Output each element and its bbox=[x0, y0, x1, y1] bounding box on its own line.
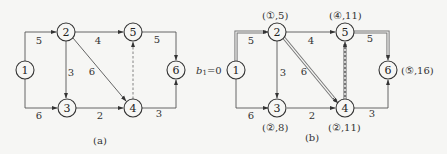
edge-1-3 bbox=[25, 79, 57, 108]
svg-text:2: 2 bbox=[63, 26, 70, 39]
node-2: 2 bbox=[268, 23, 286, 41]
mark-node-6: (⑤,16) bbox=[401, 65, 434, 76]
weight-3-4: 2 bbox=[309, 110, 315, 121]
node-5: 5 bbox=[336, 23, 354, 41]
weight-1-3: 6 bbox=[36, 110, 42, 121]
weight-4-6: 3 bbox=[369, 108, 375, 119]
svg-text:1: 1 bbox=[22, 64, 29, 77]
weight-3-4: 2 bbox=[97, 110, 103, 121]
node-3: 3 bbox=[58, 99, 76, 117]
svg-text:6: 6 bbox=[385, 64, 392, 77]
weight-2-4: 6 bbox=[89, 66, 95, 77]
mark-node-4: (②,11) bbox=[328, 122, 361, 133]
diagram-a: 5 6 4 3 6 2 5 3 1 2 3 4 5 6 (a) bbox=[16, 23, 185, 146]
mark-node-3: (②,8) bbox=[262, 122, 288, 133]
svg-text:3: 3 bbox=[274, 102, 281, 115]
svg-text:1: 1 bbox=[233, 64, 240, 77]
svg-text:3: 3 bbox=[64, 102, 71, 115]
weight-2-3: 3 bbox=[68, 67, 74, 78]
diagram-b: b1=0 5 6 4 3 6 2 5 3 1 2 3 4 5 bbox=[196, 10, 434, 143]
weight-1-2: 5 bbox=[36, 35, 42, 46]
svg-text:4: 4 bbox=[342, 102, 349, 115]
edge-2-4 bbox=[73, 38, 126, 101]
node-4: 4 bbox=[124, 99, 142, 117]
edge-1-3 bbox=[236, 79, 268, 108]
node-6: 6 bbox=[167, 61, 185, 79]
network-diagram-figure: 5 6 4 3 6 2 5 3 1 2 3 4 5 6 (a) b1=0 bbox=[0, 0, 447, 154]
node-2: 2 bbox=[57, 23, 75, 41]
weight-5-6: 5 bbox=[154, 34, 160, 45]
mark-node-5: (④,11) bbox=[329, 10, 362, 21]
svg-text:5: 5 bbox=[342, 26, 349, 39]
node-1: 1 bbox=[16, 61, 34, 79]
weight-2-3: 3 bbox=[280, 67, 286, 78]
svg-text:2: 2 bbox=[274, 26, 281, 39]
weight-5-6: 5 bbox=[367, 33, 373, 44]
node-4: 4 bbox=[336, 99, 354, 117]
weight-2-5: 4 bbox=[95, 35, 101, 46]
node-1: 1 bbox=[227, 61, 245, 79]
start-label: b1=0 bbox=[196, 65, 222, 78]
node-5: 5 bbox=[124, 23, 142, 41]
edge-4-6 bbox=[142, 80, 176, 108]
weight-2-4: 6 bbox=[301, 66, 307, 77]
weight-1-2: 5 bbox=[248, 35, 254, 46]
svg-text:5: 5 bbox=[130, 26, 137, 39]
weight-1-3: 6 bbox=[248, 110, 254, 121]
weight-2-5: 4 bbox=[308, 35, 314, 46]
edge-4-6 bbox=[354, 80, 388, 108]
caption-b: (b) bbox=[305, 132, 319, 143]
node-3: 3 bbox=[268, 99, 286, 117]
svg-text:4: 4 bbox=[130, 102, 137, 115]
svg-text:6: 6 bbox=[173, 64, 180, 77]
mark-node-2: (①,5) bbox=[262, 10, 288, 21]
weight-4-6: 3 bbox=[156, 108, 162, 119]
node-6: 6 bbox=[379, 61, 397, 79]
caption-a: (a) bbox=[93, 135, 107, 146]
